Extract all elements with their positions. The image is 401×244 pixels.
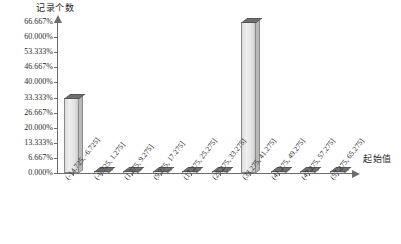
x-axis-arrow-icon	[352, 170, 360, 178]
y-axis-tick-label: 13.333%	[24, 138, 58, 147]
x-axis-tick-group: (-14.725, -6.725](-6.725, 1.275](1.275, …	[58, 174, 353, 244]
y-axis-tick: 60.000%	[0, 32, 58, 42]
y-axis-tick: 0.000%	[0, 168, 58, 178]
y-axis-tick: 40.000%	[0, 77, 58, 87]
y-axis-tick-label: 53.333%	[24, 47, 58, 56]
bar[interactable]	[241, 22, 256, 173]
y-axis-tick: 46.667%	[0, 62, 58, 72]
y-axis-tick: 26.667%	[0, 108, 58, 118]
y-axis-tick: 53.333%	[0, 47, 58, 57]
y-axis-tick-label: 66.667%	[24, 17, 58, 26]
y-axis-tick-label: 20.000%	[24, 123, 58, 132]
histogram-chart: 记录个数 起始值 66.667%60.000%53.333%46.667%40.…	[0, 0, 401, 244]
y-axis-tick: 13.333%	[0, 138, 58, 148]
y-axis-tick-label: 40.000%	[24, 77, 58, 86]
y-axis-tick-label: 33.333%	[24, 93, 58, 102]
y-axis-tick: 6.667%	[0, 153, 58, 163]
y-axis-tick: 20.000%	[0, 123, 58, 133]
y-axis-tick-label: 26.667%	[24, 108, 58, 117]
y-axis-tick-label: 60.000%	[24, 32, 58, 41]
y-axis-tick-label: 46.667%	[24, 62, 58, 71]
y-axis-title: 记录个数	[36, 1, 74, 14]
y-axis-tick: 66.667%	[0, 17, 58, 27]
y-axis-tick: 33.333%	[0, 93, 58, 103]
x-axis-title: 起始值	[363, 152, 392, 165]
bar-front-face	[241, 22, 256, 173]
